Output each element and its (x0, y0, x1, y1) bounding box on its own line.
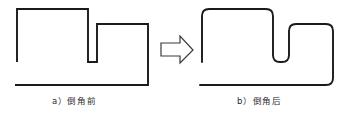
figure-canvas (0, 0, 346, 115)
chamfer-comparison-figure: a）倒角前 b）倒角后 (0, 0, 346, 115)
figure-background (0, 0, 346, 115)
